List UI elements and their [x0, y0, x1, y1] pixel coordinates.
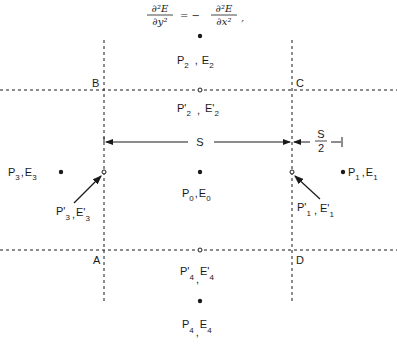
lhs-numerator: ∂²E [152, 3, 169, 14]
laplace-equation: ∂²E ∂y² = − ∂²E ∂x² , [147, 3, 244, 27]
dimension-half-s: S 2 [294, 128, 342, 154]
equation-comma: , [241, 12, 244, 23]
point-p0 [198, 170, 202, 174]
label-p1-prime-e1-prime: P'1,E'1 [297, 201, 334, 219]
point-p2-prime [198, 88, 202, 92]
corner-label-d: D [296, 254, 304, 266]
rhs-denominator: ∂x² [217, 16, 232, 27]
corner-label-a: A [93, 254, 101, 266]
label-p1-e1: P1,E1 [348, 166, 378, 182]
point-p1 [341, 170, 345, 174]
leader-arrow-p3-prime [74, 176, 101, 203]
lhs-denominator: ∂y² [153, 16, 168, 27]
point-p3 [59, 170, 63, 174]
label-p2-e2: P2,E2 [177, 54, 214, 70]
label-p2-prime-e2-prime: P'2,E'2 [177, 102, 219, 118]
label-p4-prime-e4-prime: P'4,E'4 [180, 265, 214, 285]
corner-label-b: B [92, 77, 99, 89]
label-p3-e3: P3,E3 [8, 166, 37, 182]
finite-difference-grid-diagram: ∂²E ∂y² = − ∂²E ∂x² , B C A D S S 2 [0, 0, 397, 345]
label-p4-e4: P4,E4 [182, 318, 212, 338]
label-p3-prime-e3-prime: P'3,E'3 [56, 205, 90, 223]
equals-minus: = − [180, 10, 200, 21]
half-s-numerator: S [317, 128, 324, 140]
point-p1-prime [290, 170, 294, 174]
leader-arrow-p1-prime [295, 176, 320, 199]
point-p2 [198, 34, 202, 38]
dimension-s: S [104, 136, 290, 148]
point-p3-prime [102, 170, 106, 174]
dimension-s-label: S [196, 136, 203, 148]
point-p4 [198, 299, 202, 303]
rhs-numerator: ∂²E [216, 3, 233, 14]
half-s-denominator: 2 [318, 142, 324, 154]
corner-label-c: C [296, 77, 304, 89]
label-p0-e0: P0,E0 [182, 187, 211, 203]
point-p4-prime [198, 248, 202, 252]
